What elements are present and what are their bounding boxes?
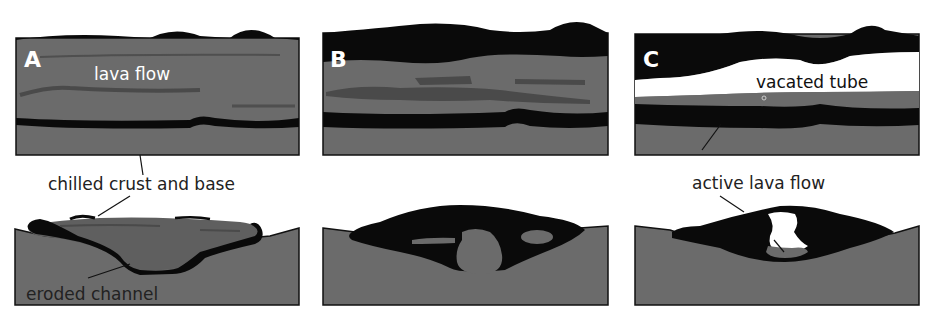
panel-letter-c: C [643,47,659,72]
label-vacated-tube: vacated tube [756,72,868,92]
panel-a-longitudinal: A lava flow [16,30,299,155]
callout-eroded-channel: eroded channel [26,284,158,304]
panel-b-cross-section [323,205,608,305]
callout-chilled-crust: chilled crust and base [48,174,235,194]
label-lava-flow: lava flow [94,64,170,84]
panel-b-longitudinal: B [323,22,608,155]
lava-tube-diagram: A lava flow B C vacated tube [0,0,935,319]
callout-active-lava-flow: active lava flow [692,173,825,193]
panel-letter-b: B [330,47,347,72]
panel-letter-a: A [24,47,41,72]
panel-c-longitudinal: C vacated tube [635,26,919,155]
panel-a-cross-section: chilled crust and base eroded channel [15,155,299,305]
